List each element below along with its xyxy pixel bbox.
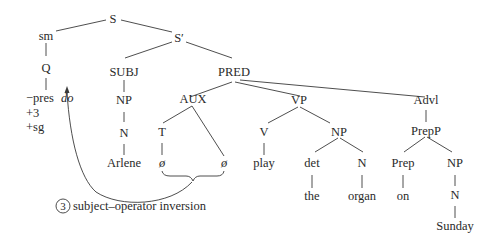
edge-NP-N-obj (340, 138, 363, 152)
node-NP-obj: NP (331, 125, 347, 139)
leaf-Sunday: Sunday (436, 219, 474, 233)
transformation-label: subject–operator inversion (73, 199, 207, 213)
node-PRED: PRED (218, 65, 250, 79)
node-VP: VP (291, 93, 307, 107)
step-number: 3 (60, 200, 66, 212)
node-PrepP: PrepP (411, 124, 441, 138)
feature-tense: −pres (26, 91, 54, 105)
node-V: V (259, 125, 268, 139)
leaf-null-aspect: ø (220, 156, 228, 170)
edge-S-sm (56, 20, 106, 31)
node-AUX: AUX (179, 92, 206, 106)
edge-PRED-Advl (240, 80, 425, 97)
leaf-organ: organ (348, 189, 377, 203)
edge-Sprime-SUBJ (125, 42, 172, 58)
node-N-subj: N (119, 126, 128, 140)
node-S: S (110, 12, 117, 26)
edge-PrepP-Prep (404, 137, 425, 152)
edge-NP-det (315, 138, 338, 152)
edge-VP-V (268, 107, 298, 123)
inversion-arrow (67, 92, 192, 202)
node-do: do (61, 91, 74, 105)
leaf-null-T: ø (158, 156, 166, 170)
node-S-prime: S′ (174, 31, 184, 45)
node-N-obj: N (357, 156, 366, 170)
node-T: T (158, 125, 166, 139)
node-SUBJ: SUBJ (109, 65, 138, 79)
curly-brace (162, 171, 224, 181)
leaf-on: on (397, 189, 410, 203)
feature-person: +3 (26, 106, 39, 120)
tree-edges (46, 20, 455, 218)
node-Q: Q (41, 61, 50, 75)
edge-S-Sprime (121, 20, 172, 32)
node-NP-subj: NP (116, 93, 132, 107)
node-N-adv: N (450, 188, 459, 202)
node-det: det (304, 156, 320, 170)
node-Advl: Advl (414, 93, 440, 107)
node-sm: sm (39, 29, 54, 43)
edge-Sprime-PRED (186, 42, 232, 58)
node-NP-adv: NP (447, 156, 463, 170)
edge-AUX-null2 (192, 106, 224, 156)
leaf-the: the (304, 189, 320, 203)
syntax-tree: S S′ sm Q −pres do +3 +sg SUBJ PRED NP N… (0, 0, 495, 249)
leaf-Arlene: Arlene (107, 156, 141, 170)
edge-AUX-T (163, 106, 192, 123)
feature-number: +sg (26, 120, 45, 134)
edge-VP-NP (300, 107, 330, 123)
transformation-annotation: 3 subject–operator inversion (56, 199, 207, 213)
leaf-play: play (253, 156, 275, 170)
edge-PrepP-NP (427, 137, 452, 152)
node-Prep: Prep (392, 156, 415, 170)
